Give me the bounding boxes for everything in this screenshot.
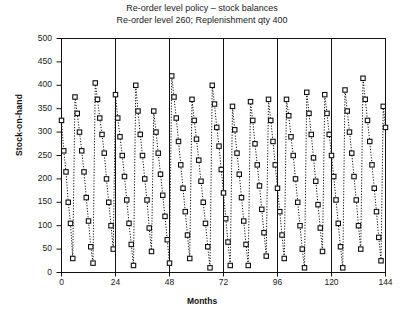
data-point-marker — [149, 249, 153, 253]
data-point-marker — [73, 95, 77, 99]
data-point-marker — [341, 266, 345, 270]
data-point-marker — [109, 224, 113, 228]
data-point-marker — [91, 261, 95, 265]
data-point-marker — [332, 174, 336, 178]
data-point-marker — [93, 81, 97, 85]
data-point-marker — [219, 167, 223, 171]
data-point-marker — [62, 149, 66, 153]
data-point-marker — [262, 231, 266, 235]
data-point-marker — [185, 233, 189, 237]
data-point-marker — [228, 263, 232, 267]
y-tick-label: 200 — [18, 173, 52, 183]
data-point-marker — [255, 163, 259, 167]
y-tick-label: 250 — [18, 150, 52, 160]
data-point-marker — [80, 149, 84, 153]
data-point-marker — [368, 139, 372, 143]
y-tick-label: 0 — [18, 267, 52, 277]
data-point-marker — [305, 90, 309, 94]
data-point-marker — [82, 170, 86, 174]
data-point-marker — [68, 221, 72, 225]
data-point-marker — [287, 114, 291, 118]
data-point-marker — [296, 200, 300, 204]
data-point-marker — [183, 209, 187, 213]
data-point-marker — [210, 83, 214, 87]
data-point-marker — [316, 202, 320, 206]
data-point-marker — [161, 193, 165, 197]
data-point-marker — [206, 245, 210, 249]
x-tick-label: 0 — [47, 277, 77, 287]
data-point-marker — [122, 174, 126, 178]
data-point-marker — [226, 240, 230, 244]
data-point-marker — [208, 266, 212, 270]
data-point-marker — [284, 97, 288, 101]
data-point-marker — [201, 200, 205, 204]
data-point-marker — [179, 163, 183, 167]
data-point-marker — [372, 186, 376, 190]
data-point-marker — [172, 95, 176, 99]
data-point-marker — [251, 118, 255, 122]
data-point-marker — [199, 179, 203, 183]
data-point-marker — [336, 221, 340, 225]
y-tick-label: 150 — [18, 196, 52, 206]
x-tick-label: 24 — [101, 277, 131, 287]
data-point-marker — [230, 104, 234, 108]
data-point-marker — [71, 256, 75, 260]
data-point-marker — [327, 132, 331, 136]
data-point-marker — [266, 97, 270, 101]
data-point-marker — [260, 207, 264, 211]
data-point-marker — [192, 118, 196, 122]
data-point-marker — [190, 97, 194, 101]
x-axis-label: Months — [0, 296, 404, 306]
data-point-marker — [280, 233, 284, 237]
data-point-marker — [253, 142, 257, 146]
data-point-marker — [127, 221, 131, 225]
data-point-marker — [140, 153, 144, 157]
y-tick-label: 400 — [18, 79, 52, 89]
data-point-marker — [212, 102, 216, 106]
data-point-marker — [293, 177, 297, 181]
data-point-marker — [246, 263, 250, 267]
x-tick-label: 48 — [155, 277, 185, 287]
y-tick-label: 500 — [18, 33, 52, 43]
data-point-marker — [311, 156, 315, 160]
data-point-marker — [158, 172, 162, 176]
data-point-marker — [84, 195, 88, 199]
data-point-marker — [89, 245, 93, 249]
y-tick-label: 300 — [18, 126, 52, 136]
data-point-marker — [365, 118, 369, 122]
data-point-marker — [273, 163, 277, 167]
data-point-marker — [377, 235, 381, 239]
data-point-marker — [233, 128, 237, 132]
data-point-marker — [174, 116, 178, 120]
x-tick-label: 120 — [317, 277, 347, 287]
data-point-marker — [64, 170, 68, 174]
data-point-marker — [289, 135, 293, 139]
plot-area — [0, 0, 404, 320]
x-tick-label: 96 — [263, 277, 293, 287]
data-point-marker — [325, 111, 329, 115]
data-point-marker — [111, 247, 115, 251]
data-point-marker — [129, 242, 133, 246]
data-point-marker — [224, 216, 228, 220]
x-tick-label: 144 — [371, 277, 401, 287]
data-point-marker — [356, 224, 360, 228]
data-point-marker — [194, 137, 198, 141]
data-point-marker — [104, 177, 108, 181]
data-point-marker — [264, 254, 268, 258]
data-point-marker — [291, 153, 295, 157]
data-point-marker — [282, 256, 286, 260]
data-point-marker — [125, 198, 129, 202]
data-point-marker — [345, 109, 349, 113]
data-point-marker — [215, 125, 219, 129]
data-point-marker — [176, 139, 180, 143]
data-point-marker — [217, 144, 221, 148]
data-point-marker — [354, 198, 358, 202]
data-point-marker — [278, 209, 282, 213]
data-point-marker — [156, 151, 160, 155]
y-tick-label: 450 — [18, 56, 52, 66]
data-point-marker — [143, 177, 147, 181]
data-point-marker — [98, 116, 102, 120]
data-point-marker — [152, 109, 156, 113]
y-tick-label: 350 — [18, 103, 52, 113]
data-point-marker — [381, 104, 385, 108]
